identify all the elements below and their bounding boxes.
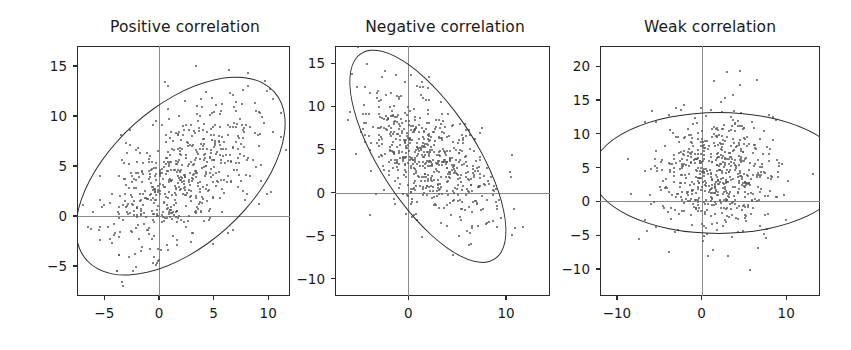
y-tick-label: 5 (15, 158, 67, 174)
scatter-point (683, 104, 685, 106)
scatter-point (768, 114, 770, 116)
y-tick-mark (596, 99, 600, 100)
panel-title: Weak correlation (565, 18, 851, 36)
scatter-point (710, 109, 712, 111)
x-tick-mark (158, 296, 159, 300)
scatter-point (757, 247, 759, 249)
scatter-point (357, 46, 359, 48)
y-tick-label: −5 (538, 227, 590, 243)
scatter-point (720, 101, 722, 103)
y-tick-mark (331, 63, 335, 64)
scatter-point (675, 107, 677, 109)
y-tick-mark (331, 278, 335, 279)
y-tick-label: 10 (273, 98, 325, 114)
scatter-point (739, 84, 741, 86)
scatter-point (702, 240, 704, 242)
scatter-point (712, 249, 714, 251)
x-tick-mark (701, 296, 702, 300)
scatter-point (513, 208, 515, 210)
scatter-point (731, 236, 733, 238)
x-tick-label: 5 (209, 305, 218, 321)
y-tick-mark (331, 149, 335, 150)
y-tick-mark (73, 165, 77, 166)
scatter-point (195, 65, 197, 67)
scatter-point (707, 255, 709, 257)
scatter-point (383, 189, 385, 191)
scatter-point (732, 94, 734, 96)
y-tick-mark (596, 66, 600, 67)
y-tick-label: 5 (273, 141, 325, 157)
x-tick-label: 0 (155, 305, 164, 321)
y-tick-label: 15 (538, 92, 590, 108)
scatter-point (514, 227, 516, 229)
x-tick-mark (213, 296, 214, 300)
x-tick-label: 10 (778, 305, 795, 321)
y-tick-mark (73, 65, 77, 66)
panel-title: Positive correlation (40, 18, 330, 36)
x-tick-mark (104, 296, 105, 300)
y-tick-mark (73, 115, 77, 116)
scatter-point (428, 76, 430, 78)
scatter-point (122, 285, 124, 287)
y-tick-label: 15 (273, 55, 325, 71)
scatter-point (522, 226, 524, 228)
panel-title: Negative correlation (300, 18, 590, 36)
y-tick-label: −5 (15, 258, 67, 274)
scatter-point (369, 214, 371, 216)
scatter-point (713, 80, 715, 82)
scatter-point (481, 127, 483, 129)
x-tick-mark (505, 296, 506, 300)
scatter-point (212, 243, 214, 245)
x-tick-label: 10 (497, 305, 514, 321)
y-tick-label: 20 (538, 58, 590, 74)
y-tick-mark (73, 265, 77, 266)
y-tick-label: 0 (15, 208, 67, 224)
y-tick-mark (73, 215, 77, 216)
scatter-point (452, 254, 454, 256)
scatter-point (393, 198, 395, 200)
y-tick-label: 0 (538, 193, 590, 209)
y-tick-mark (596, 167, 600, 168)
scatter-point (167, 85, 169, 87)
scatter-point (164, 81, 166, 83)
x-tick-label: 0 (697, 305, 706, 321)
scatter-point (674, 231, 676, 233)
scatter-point (703, 235, 705, 237)
scatter-point (232, 229, 234, 231)
x-tick-label: −5 (94, 305, 114, 321)
scatter-point (651, 110, 653, 112)
scatter-point (121, 281, 123, 283)
x-tick-mark (616, 296, 617, 300)
scatter-point (646, 230, 648, 232)
scatter-point (228, 69, 230, 71)
y-tick-label: 0 (273, 185, 325, 201)
y-tick-label: 5 (538, 160, 590, 176)
scatter-point (739, 70, 741, 72)
plot-area (600, 46, 820, 296)
x-tick-label: 10 (260, 305, 277, 321)
scatter-point (680, 109, 682, 111)
x-tick-label: 0 (404, 305, 413, 321)
scatter-point (511, 154, 513, 156)
confidence-ellipse (600, 112, 820, 234)
scatter-point (270, 191, 272, 193)
scatter-point (266, 193, 268, 195)
scatter-point (511, 234, 513, 236)
scatter-point (375, 193, 377, 195)
scatter-point (756, 79, 758, 81)
scatter-point (509, 171, 511, 173)
y-tick-label: −10 (273, 271, 325, 287)
plot-area (335, 46, 550, 296)
y-tick-label: 15 (15, 58, 67, 74)
x-tick-mark (408, 296, 409, 300)
scatter-point (347, 119, 349, 121)
y-tick-mark (596, 133, 600, 134)
confidence-ellipse (77, 46, 290, 296)
x-tick-mark (786, 296, 787, 300)
scatter-point (700, 107, 702, 109)
y-tick-mark (331, 235, 335, 236)
y-tick-label: 10 (538, 126, 590, 142)
scatter-point (247, 72, 249, 74)
x-tick-mark (268, 296, 269, 300)
scatter-point (727, 255, 729, 257)
